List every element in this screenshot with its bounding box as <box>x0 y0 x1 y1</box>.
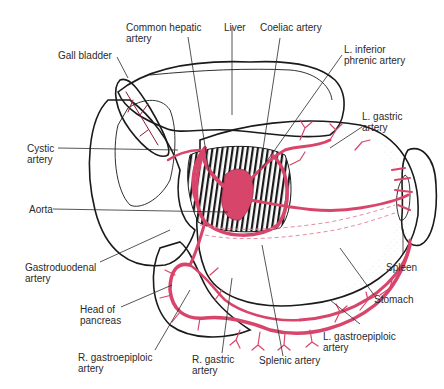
label-splenic-artery: Splenic artery <box>259 355 320 366</box>
label-l-gastric-artery: L. gastric artery <box>362 111 403 133</box>
label-gastroduodenal-artery: Gastroduodenal artery <box>25 262 96 284</box>
label-aorta: Aorta <box>29 204 53 215</box>
label-cystic-artery: Cystic artery <box>27 143 54 165</box>
liver-right-lobe <box>89 100 195 266</box>
label-l-inferior-phrenic-artery: L. inferior phrenic artery <box>344 44 405 66</box>
label-r-gastroepiploic-artery: R. gastroepiploic artery <box>78 352 152 374</box>
pancreas-head <box>153 242 250 337</box>
label-coeliac-artery: Coeliac artery <box>260 22 322 33</box>
liver <box>118 62 344 137</box>
label-head-of-pancreas: Head of pancreas <box>80 304 121 326</box>
label-liver: Liver <box>224 22 246 33</box>
label-common-hepatic-artery: Common hepatic artery <box>126 22 202 44</box>
liver-inner-edge <box>150 69 332 100</box>
coeliac-anatomy-diagram: Common hepatic artery Liver Coeliac arte… <box>0 0 444 389</box>
liver-shade <box>115 100 175 206</box>
label-spleen: Spleen <box>386 262 417 273</box>
label-gall-bladder: Gall bladder <box>58 50 112 61</box>
label-r-gastric-artery: R. gastric artery <box>192 354 234 376</box>
label-stomach: Stomach <box>374 294 413 305</box>
label-l-gastroepiploic-artery: L. gastroepiploic artery <box>323 331 396 353</box>
